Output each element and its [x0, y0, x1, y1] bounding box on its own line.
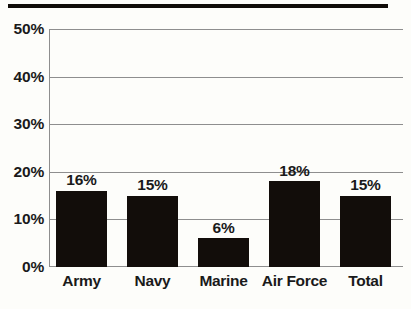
y-axis-tick-label: 50%	[14, 20, 44, 38]
bar-army	[56, 191, 107, 267]
bar-value-label: 16%	[56, 172, 107, 188]
bar-marine	[198, 238, 249, 267]
bar-air-force	[269, 181, 320, 267]
bar-series: 16%Army15%Navy6%Marine18%Air Force15%Tot…	[49, 29, 403, 267]
bar-group: 15%Navy	[127, 29, 178, 267]
plot-area: 0%10%20%30%40%50% 16%Army15%Navy6%Marine…	[49, 29, 403, 267]
x-axis-tick-label: Army	[46, 272, 117, 290]
y-axis-tick-label: 40%	[14, 68, 44, 86]
bar-group: 16%Army	[56, 29, 107, 267]
bar-value-label: 15%	[127, 177, 178, 193]
bar-value-label: 15%	[340, 177, 391, 193]
bar-total	[340, 196, 391, 267]
bar-group: 15%Total	[340, 29, 391, 267]
x-axis-tick-label: Navy	[117, 272, 188, 290]
bar-group: 18%Air Force	[269, 29, 320, 267]
y-axis-tick-label: 30%	[14, 115, 44, 133]
y-axis-tick-label: 20%	[14, 163, 44, 181]
x-axis-tick-label: Total	[330, 272, 401, 290]
x-axis-tick-label: Air Force	[259, 272, 330, 290]
x-axis-tick-label: Marine	[188, 272, 259, 290]
bar-group: 6%Marine	[198, 29, 249, 267]
y-axis-tick-label: 10%	[14, 210, 44, 228]
bar-navy	[127, 196, 178, 267]
bar-value-label: 18%	[269, 163, 320, 179]
y-axis-tick-label: 0%	[22, 258, 44, 276]
top-horizontal-rule	[8, 4, 388, 8]
bar-chart-figure: 0%10%20%30%40%50% 16%Army15%Navy6%Marine…	[0, 0, 411, 309]
bar-value-label: 6%	[198, 220, 249, 236]
